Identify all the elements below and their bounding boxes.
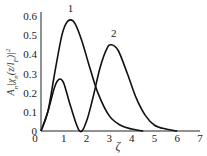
x-tick-label: 3	[106, 132, 112, 144]
curve-label: 1	[68, 2, 74, 14]
y-tick-label: 0.5	[23, 29, 37, 41]
x-tick-label: 4	[129, 132, 135, 144]
y-tick-label: 0.6	[23, 10, 37, 22]
y-tick-label: 0.4	[23, 48, 37, 60]
y-tick-labels: 00.10.20.30.40.50.6	[23, 10, 37, 137]
curves	[41, 20, 177, 132]
x-axis-label: ζ	[116, 139, 122, 153]
y-tick-label: 0.2	[23, 87, 37, 99]
curve-2	[41, 45, 177, 132]
y-tick-label: 0.1	[23, 106, 37, 118]
curve-label: 2	[111, 27, 117, 39]
x-tick-label: 6	[175, 132, 181, 144]
y-tick-label: 0.3	[23, 68, 37, 80]
y-axis-label: An|χn(z/lF)|2	[4, 48, 20, 96]
x-tick-label: 2	[84, 132, 90, 144]
x-tick-label: 7	[197, 132, 203, 144]
chart: 00.10.20.30.40.50.6 01234567 12 ζ An|χn(…	[0, 0, 207, 156]
x-tick-label: 5	[152, 132, 158, 144]
curve-labels: 12	[68, 2, 117, 39]
x-tick-label: 0	[32, 132, 38, 144]
x-tick-label: 1	[61, 132, 67, 144]
